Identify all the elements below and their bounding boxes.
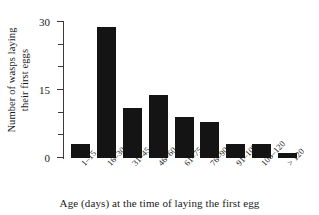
y-axis-title-line-1: Number of wasps laying bbox=[6, 27, 19, 132]
y-axis-tick-minor bbox=[58, 66, 63, 67]
y-axis-tick-major bbox=[57, 89, 64, 90]
y-axis-title: Number of wasps laying their first eggs bbox=[0, 0, 36, 160]
plot-area: 01530 bbox=[68, 22, 300, 158]
x-axis-title: Age (days) at the time of laying the fir… bbox=[0, 197, 319, 209]
bar-series bbox=[68, 22, 300, 158]
y-axis-title-line-2: their first eggs bbox=[18, 27, 31, 132]
y-axis-tick-minor bbox=[58, 134, 63, 135]
y-axis-tick-major bbox=[57, 21, 64, 22]
y-axis-tick-label: 15 bbox=[39, 84, 50, 96]
y-axis-tick-label: 30 bbox=[39, 16, 50, 28]
bar-chart-figure: Number of wasps laying their first eggs … bbox=[0, 0, 319, 215]
y-axis-tick-major bbox=[57, 157, 64, 158]
y-axis-line bbox=[63, 22, 64, 159]
y-axis-tick-minor bbox=[58, 112, 63, 113]
bar bbox=[149, 95, 168, 158]
x-axis-tick-labels: 1–1516–3031–4546–6061–7576–9091–105106–1… bbox=[68, 159, 300, 195]
y-axis-tick-label: 0 bbox=[45, 152, 51, 164]
y-axis-tick-minor bbox=[58, 44, 63, 45]
bar bbox=[97, 27, 116, 158]
